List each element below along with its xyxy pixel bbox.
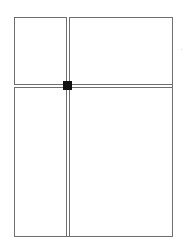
drag-handle-icon[interactable] <box>63 81 72 90</box>
pane-bottom-right <box>70 88 171 235</box>
pane-top-right <box>70 18 171 84</box>
stray-pixel <box>181 49 182 50</box>
split-layout-canvas <box>0 0 185 250</box>
pane-top-left <box>15 18 66 84</box>
vertical-splitter[interactable] <box>66 17 70 236</box>
horizontal-splitter[interactable] <box>14 84 172 88</box>
pane-bottom-left <box>15 88 66 235</box>
